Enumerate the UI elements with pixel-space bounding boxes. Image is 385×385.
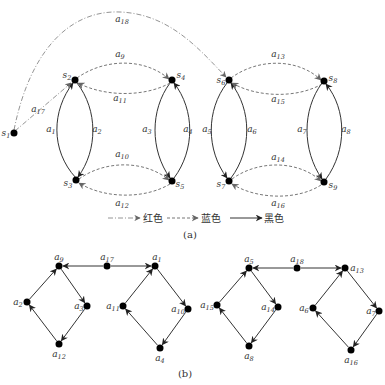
edge-a2-a9 xyxy=(30,269,57,299)
node-b-a14 xyxy=(275,304,282,311)
node-b-a7 xyxy=(376,308,383,315)
node-label-b-a11: a11 xyxy=(106,301,120,313)
node-label-b-a9: a9 xyxy=(54,252,64,264)
legend-label-blue: 蓝色 xyxy=(201,212,221,224)
edge-a4-a11 xyxy=(126,309,158,345)
node-s3 xyxy=(73,177,80,184)
node-s5 xyxy=(169,178,176,185)
node-label-s1: s1 xyxy=(2,128,11,140)
edge-a10 xyxy=(79,165,169,180)
node-label-b-a4: a4 xyxy=(155,353,165,365)
node-s8 xyxy=(321,78,328,85)
node-label-s9: s9 xyxy=(329,180,338,192)
figure-b-nodes: a9a17a1a2a3a12a11a10a4a5a18a13a15a14a8a6… xyxy=(13,252,382,367)
edge-a5 xyxy=(211,83,227,178)
edge-label-a18: a18 xyxy=(115,14,129,26)
node-b-a10 xyxy=(185,306,192,313)
node-label-b-a5: a5 xyxy=(244,254,254,266)
legend: 红色蓝色黑色 xyxy=(108,212,284,224)
edge-a9 xyxy=(77,63,169,79)
node-label-s2: s2 xyxy=(63,70,72,82)
node-label-b-a15: a15 xyxy=(200,300,214,312)
edge-label-a6: a6 xyxy=(247,124,257,136)
edge-a11-a1 xyxy=(125,269,152,303)
node-b-a3 xyxy=(84,303,91,310)
edge-a6 xyxy=(231,83,247,178)
edge-label-a1: a1 xyxy=(46,124,56,136)
node-s9 xyxy=(321,179,328,186)
edge-a15-a5 xyxy=(220,271,247,302)
node-label-b-a7: a7 xyxy=(366,306,376,318)
edge-a1-a10 xyxy=(157,269,185,306)
edge-a9-a3 xyxy=(61,269,84,302)
node-label-b-a1: a1 xyxy=(152,252,162,264)
edge-a12 xyxy=(79,183,170,195)
edge-a13 xyxy=(231,63,321,80)
edge-label-a9: a9 xyxy=(115,49,125,61)
edge-a16 xyxy=(232,184,321,196)
caption-a: (a) xyxy=(183,229,197,240)
edge-a1 xyxy=(57,83,76,178)
node-b-a6 xyxy=(310,305,317,312)
node-label-s8: s8 xyxy=(329,73,338,85)
edge-a16-a6 xyxy=(316,311,349,347)
node-b-a4 xyxy=(157,345,164,352)
node-s7 xyxy=(226,178,233,185)
node-label-b-a6: a6 xyxy=(299,303,309,315)
node-s1 xyxy=(11,130,18,137)
node-s4 xyxy=(169,77,176,84)
node-label-s6: s6 xyxy=(217,75,226,87)
edge-a6-a13 xyxy=(315,271,342,305)
edge-label-a17: a17 xyxy=(31,104,46,116)
legend-label-red: 红色 xyxy=(143,212,163,224)
node-label-b-a12: a12 xyxy=(52,349,66,361)
edge-label-a11: a11 xyxy=(113,93,127,105)
node-label-s7: s7 xyxy=(217,179,227,191)
edge-a10-a4 xyxy=(162,312,185,345)
node-b-a13 xyxy=(342,265,349,272)
edge-label-a8: a8 xyxy=(341,124,351,136)
edge-a17 xyxy=(15,83,71,131)
node-s6 xyxy=(226,77,233,84)
node-label-b-a18: a18 xyxy=(290,254,304,266)
edge-a13-a7 xyxy=(347,271,376,308)
edge-label-a2: a2 xyxy=(92,124,102,136)
caption-b: (b) xyxy=(178,368,192,379)
node-label-b-a16: a16 xyxy=(344,355,358,367)
node-label-s3: s3 xyxy=(64,178,73,190)
edge-a12-a2 xyxy=(29,305,56,341)
edge-a3-a12 xyxy=(61,309,84,341)
edge-a2 xyxy=(77,83,93,177)
node-label-b-a13: a13 xyxy=(350,263,364,275)
node-label-b-a8: a8 xyxy=(244,351,254,363)
node-b-a2 xyxy=(24,299,31,306)
node-label-b-a10: a10 xyxy=(171,304,185,316)
node-b-a12 xyxy=(56,341,63,348)
edge-label-a7: a7 xyxy=(297,124,307,136)
legend-label-black: 黑色 xyxy=(264,212,284,224)
node-s2 xyxy=(72,77,79,84)
edge-a5-a14 xyxy=(251,271,275,304)
edge-label-a13: a13 xyxy=(271,49,285,61)
node-label-b-a14: a14 xyxy=(261,302,275,314)
node-b-a11 xyxy=(120,303,127,310)
edge-a8-a15 xyxy=(219,308,246,343)
edge-a18 xyxy=(14,12,226,130)
node-label-b-a3: a3 xyxy=(74,301,84,313)
edge-a8 xyxy=(326,84,342,179)
node-b-a15 xyxy=(214,302,221,309)
node-label-b-a17: a17 xyxy=(100,252,115,264)
edge-a3 xyxy=(155,83,170,178)
node-b-a8 xyxy=(246,343,253,350)
edge-label-a3: a3 xyxy=(142,124,152,136)
edge-a7-a16 xyxy=(353,314,376,347)
node-label-s5: s5 xyxy=(176,179,185,191)
graph-diagram: a1a2a3a4a5a6a7a8a9a10a11a12a13a14a15a16a… xyxy=(0,0,385,385)
edge-label-a12: a12 xyxy=(115,198,129,210)
node-label-b-a2: a2 xyxy=(13,297,23,309)
edge-a15 xyxy=(232,83,322,94)
edge-label-a10: a10 xyxy=(115,149,129,161)
edge-label-a14: a14 xyxy=(271,152,285,164)
edge-label-a4: a4 xyxy=(183,124,193,136)
edge-a14-a8 xyxy=(251,310,275,343)
